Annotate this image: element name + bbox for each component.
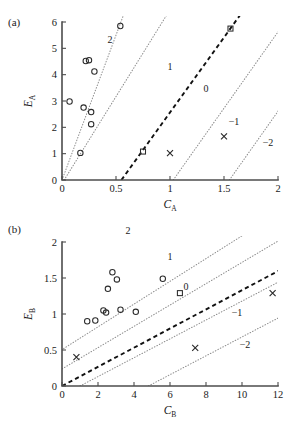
line-label-1: 1 — [168, 251, 173, 262]
panel-b-plot: 02468101200.511.52CBEB210−1−2 — [0, 218, 300, 437]
data-point-circle — [81, 105, 86, 110]
data-point-circle — [85, 319, 90, 324]
guide-line-group — [62, 0, 300, 180]
y-axis-title-group: EA — [22, 94, 37, 108]
x-tick-label-4: 8 — [203, 389, 208, 400]
data-point-cross — [192, 345, 198, 351]
data-point-circle — [160, 276, 165, 281]
data-point-cross — [73, 354, 79, 360]
y-tick-label-4: 4 — [52, 69, 58, 80]
data-point-circle — [118, 23, 123, 28]
x-tick-label-3: 1.5 — [217, 183, 230, 194]
data-point-circle — [78, 150, 83, 155]
line-label-2: 0 — [204, 83, 209, 94]
x-tick-label-2: 4 — [131, 389, 137, 400]
y-tick-label-1: 0.5 — [44, 345, 57, 356]
x-tick-label-4: 2 — [275, 183, 280, 194]
reference-line-0 — [4, 218, 289, 386]
line-label-3: −1 — [232, 307, 243, 318]
reference-line-0 — [62, 0, 136, 180]
y-axis-subscript: B — [28, 308, 37, 313]
line-label-1: 1 — [168, 61, 173, 72]
y-tick-label-4: 2 — [52, 237, 57, 248]
reference-line-4 — [148, 218, 300, 386]
x-tick-label-1: 2 — [95, 389, 100, 400]
panel-a: (a) 00.511.520123456CAEA210−1−2 — [0, 0, 300, 218]
line-label-2: 0 — [184, 281, 189, 292]
data-point-cross — [221, 133, 227, 139]
y-tick-label-3: 3 — [52, 96, 57, 107]
line-label-4: −2 — [263, 137, 274, 148]
x-tick-label-1: 0.5 — [109, 183, 122, 194]
line-label-4: −2 — [240, 339, 251, 350]
y-tick-label-0: 0 — [52, 381, 57, 392]
x-tick-label-0: 0 — [59, 183, 64, 194]
data-point-circle — [93, 318, 98, 323]
data-point-cross — [167, 150, 173, 156]
panel-a-plot: 00.511.520123456CAEA210−1−2 — [0, 0, 300, 218]
reference-line-3 — [173, 0, 300, 180]
data-point-circle — [88, 109, 93, 114]
y-tick-label-2: 2 — [52, 122, 57, 133]
x-tick-label-0: 0 — [59, 389, 64, 400]
line-label-3: −1 — [229, 116, 240, 127]
x-tick-label-5: 10 — [237, 389, 248, 400]
y-tick-label-5: 5 — [52, 43, 57, 54]
x-axis-title: CA — [163, 198, 177, 213]
guide-line-group — [4, 218, 300, 386]
data-point-circle — [114, 277, 119, 282]
data-point-square — [177, 291, 182, 296]
figure-container: (a) 00.511.520123456CAEA210−1−2 (b) 0246… — [0, 0, 300, 437]
x-tick-label-2: 1 — [167, 183, 172, 194]
line-label-0: 2 — [126, 225, 131, 236]
y-tick-label-3: 1.5 — [44, 273, 57, 284]
panel-b: (b) 02468101200.511.52CBEB210−1−2 — [0, 218, 300, 437]
y-tick-label-0: 0 — [52, 175, 57, 186]
x-tick-label-6: 12 — [273, 389, 284, 400]
data-point-circle — [110, 270, 115, 275]
reference-line-3 — [80, 218, 300, 386]
y-axis-title: EA — [22, 94, 37, 108]
reference-line-4 — [229, 0, 300, 180]
x-axis-subscript: B — [171, 410, 176, 419]
data-point-circle — [133, 309, 138, 314]
x-tick-label-3: 6 — [167, 389, 172, 400]
reference-line-1 — [33, 218, 300, 386]
data-point-cross — [270, 290, 276, 296]
data-point-circle — [118, 307, 123, 312]
y-tick-label-1: 1 — [52, 148, 57, 159]
data-point-circle — [105, 286, 110, 291]
panel-a-label: (a) — [8, 16, 20, 28]
data-point-circle — [67, 99, 72, 104]
y-axis-title: EB — [22, 308, 37, 321]
data-point-circle — [88, 121, 93, 126]
y-tick-label-2: 1 — [52, 309, 57, 320]
y-tick-label-6: 6 — [52, 17, 57, 28]
y-axis-title-group: EB — [22, 308, 37, 321]
x-axis-subscript: A — [171, 204, 177, 213]
data-point-circle — [92, 69, 97, 74]
y-axis-subscript: A — [28, 94, 37, 100]
x-axis-title: CB — [164, 404, 177, 419]
line-label-0: 2 — [108, 34, 113, 45]
data-point-circle — [86, 57, 91, 62]
panel-b-label: (b) — [8, 223, 21, 235]
axis-frame — [62, 242, 278, 386]
reference-line-2 — [62, 218, 300, 386]
